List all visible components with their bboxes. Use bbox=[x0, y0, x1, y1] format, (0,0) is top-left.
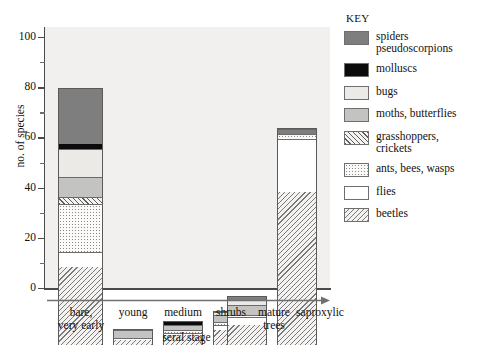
segment-molluscs bbox=[164, 322, 202, 325]
legend-label-beetles: beetles bbox=[376, 207, 408, 219]
legend-item-bugs: bugs bbox=[344, 85, 478, 100]
legend-item-ants: ants, bees, wasps bbox=[344, 162, 478, 177]
legend-swatch-ants bbox=[344, 163, 369, 177]
segment-bugs bbox=[59, 149, 102, 177]
segment-spiders-pseudoscorpions bbox=[59, 89, 102, 144]
legend-item-spiders: spiders pseudoscorpions bbox=[344, 30, 478, 55]
segment-ants-bees-wasps bbox=[278, 134, 316, 139]
y-tick-minor-70 bbox=[40, 112, 45, 113]
legend-label-flies: flies bbox=[376, 185, 396, 197]
segment-ants-bees-wasps bbox=[59, 204, 102, 252]
segment-molluscs bbox=[59, 144, 102, 149]
legend-swatch-bugs bbox=[344, 86, 369, 100]
legend-swatch-spiders bbox=[344, 31, 369, 45]
legend-label-grasshoppers: grasshoppers, crickets bbox=[376, 130, 439, 155]
legend-label-moths: moths, butterflies bbox=[376, 107, 457, 119]
legend-item-moths: moths, butterflies bbox=[344, 107, 478, 122]
y-tick-minor-10 bbox=[40, 263, 45, 264]
y-tick-label-100: 100 bbox=[2, 31, 36, 43]
legend-label-ants: ants, bees, wasps bbox=[376, 162, 455, 174]
segment-moths-butterflies bbox=[59, 177, 102, 197]
legend-swatch-flies bbox=[344, 186, 369, 200]
legend-item-grasshoppers: grasshoppers, crickets bbox=[344, 130, 478, 155]
y-tick-minor-30 bbox=[40, 213, 45, 214]
y-tick-60 bbox=[38, 137, 45, 138]
x-tick-label-saproxylic: saproxylic bbox=[284, 306, 356, 319]
y-tick-minor-50 bbox=[40, 163, 45, 164]
y-tick-20 bbox=[38, 238, 45, 239]
legend-swatch-molluscs bbox=[344, 63, 369, 77]
y-tick-40 bbox=[38, 188, 45, 189]
legend-swatch-beetles bbox=[344, 208, 369, 222]
segment-flies bbox=[59, 252, 102, 267]
segment-grasshoppers-crickets bbox=[59, 197, 102, 205]
y-tick-0 bbox=[38, 288, 45, 289]
y-axis-title: no. of species bbox=[14, 76, 26, 196]
chart-figure: 0 20 40 60 80 100 no. of species bbox=[0, 0, 478, 345]
legend-label-spiders: spiders pseudoscorpions bbox=[376, 30, 453, 55]
segment-spiders-pseudoscorpions bbox=[278, 129, 316, 134]
y-tick-100 bbox=[38, 37, 45, 38]
y-tick-minor-90 bbox=[40, 62, 45, 63]
legend-label-molluscs: molluscs bbox=[376, 62, 417, 74]
y-tick-label-0: 0 bbox=[2, 282, 36, 294]
x-axis-title: seral stage bbox=[44, 331, 329, 343]
legend-swatch-moths bbox=[344, 108, 369, 122]
legend: KEY spiders pseudoscorpions molluscs bug… bbox=[344, 12, 478, 230]
segment-flies bbox=[278, 139, 316, 192]
legend-item-flies: flies bbox=[344, 185, 478, 200]
segment-moths-butterflies bbox=[164, 325, 202, 330]
y-tick-80 bbox=[38, 87, 45, 88]
legend-label-bugs: bugs bbox=[376, 85, 398, 97]
succession-arrow-icon bbox=[47, 296, 330, 305]
legend-swatch-grasshoppers bbox=[344, 131, 369, 145]
legend-item-molluscs: molluscs bbox=[344, 62, 478, 77]
y-tick-label-20: 20 bbox=[2, 232, 36, 244]
legend-item-beetles: beetles bbox=[344, 207, 478, 222]
legend-title: KEY bbox=[346, 12, 478, 24]
